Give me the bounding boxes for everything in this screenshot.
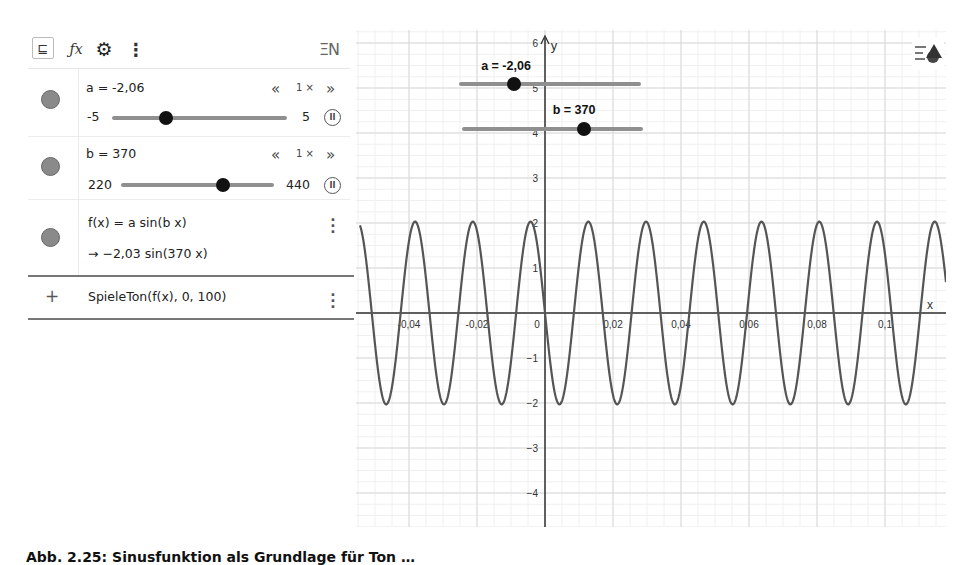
- svg-text:x: x: [927, 298, 933, 312]
- svg-text:1: 1: [532, 263, 538, 274]
- svg-text:−3: −3: [527, 443, 539, 454]
- color-cell: [28, 69, 79, 136]
- pause-icon-b[interactable]: II: [324, 177, 341, 194]
- visibility-toggle-a[interactable]: [41, 90, 60, 109]
- command-input[interactable]: SpieleTon(f(x), 0, 100): [88, 289, 226, 304]
- speed-up-button-b[interactable]: »: [326, 146, 335, 164]
- svg-text:0,06: 0,06: [739, 319, 759, 330]
- svg-text:y: y: [551, 38, 558, 53]
- visibility-toggle-b[interactable]: [41, 157, 60, 176]
- more-icon[interactable]: ⋮: [124, 37, 148, 61]
- slider-a-min: -5: [87, 109, 99, 124]
- slider-b-min: 220: [88, 177, 112, 192]
- slider-a-handle[interactable]: [159, 111, 173, 125]
- speed-down-button-a[interactable]: «: [271, 80, 280, 98]
- speed-down-button-b[interactable]: «: [271, 146, 280, 164]
- pause-icon-a[interactable]: II: [324, 109, 341, 126]
- function-row-f: f(x) = a sin(b x) → −2,03 sin(370 x) ···: [28, 200, 350, 275]
- svg-text:b = 370: b = 370: [553, 103, 596, 117]
- function-value: → −2,03 sin(370 x): [88, 246, 208, 261]
- svg-text:0: 0: [534, 319, 540, 330]
- svg-text:−4: −4: [527, 488, 539, 499]
- slider-b-track[interactable]: [121, 183, 274, 187]
- graphics-style-icon[interactable]: [912, 38, 944, 70]
- divider: [28, 318, 354, 320]
- svg-text:−1: −1: [527, 353, 539, 364]
- visibility-toggle-f[interactable]: [41, 228, 60, 247]
- gear-icon[interactable]: ⚙: [92, 37, 116, 61]
- figure-caption: Abb. 2.25: Sinusfunktion als Grundlage f…: [26, 549, 415, 565]
- canvas-slider-handle: [507, 77, 521, 91]
- fx-icon[interactable]: ƒx: [64, 37, 88, 61]
- plot-canvas[interactable]: -0,04-0,0200,020,040,060,080,1654321−1−2…: [356, 30, 946, 527]
- slider-a-max: 5: [302, 109, 310, 124]
- svg-text:0,1: 0,1: [878, 319, 892, 330]
- input-row[interactable]: + SpieleTon(f(x), 0, 100) ···: [28, 277, 350, 317]
- svg-text:-0,02: -0,02: [466, 319, 489, 330]
- color-cell: [28, 200, 79, 275]
- slider-b-max: 440: [286, 177, 310, 192]
- slider-a-label[interactable]: a = -2,06: [86, 80, 144, 95]
- slider-row-b: b = 370 « 1 × » 220 440 II: [28, 137, 350, 199]
- more-icon[interactable]: ···: [328, 292, 338, 310]
- speed-label-a[interactable]: 1 ×: [296, 82, 314, 93]
- keyboard-input-icon[interactable]: ΞN: [314, 37, 344, 61]
- slider-a-track[interactable]: [112, 116, 287, 120]
- svg-text:6: 6: [532, 38, 538, 49]
- svg-text:−2: −2: [527, 398, 539, 409]
- algebra-toolbar: ⊑ ƒx ⚙ ⋮ ΞN: [28, 35, 350, 65]
- color-cell: [28, 137, 79, 199]
- function-definition[interactable]: f(x) = a sin(b x): [88, 215, 187, 230]
- svg-text:0,08: 0,08: [807, 319, 827, 330]
- graphics-view[interactable]: -0,04-0,0200,020,040,060,080,1654321−1−2…: [356, 30, 946, 527]
- speed-up-button-a[interactable]: »: [326, 80, 335, 98]
- more-icon[interactable]: ···: [328, 217, 338, 235]
- algebra-view: ⊑ ƒx ⚙ ⋮ ΞN a = -2,06 « 1 × » -5 5 II b …: [0, 0, 356, 530]
- svg-text:-0,04: -0,04: [398, 319, 421, 330]
- slider-b-label[interactable]: b = 370: [86, 146, 136, 161]
- slider-row-a: a = -2,06 « 1 × » -5 5 II: [28, 69, 350, 136]
- svg-text:a = -2,06: a = -2,06: [481, 59, 531, 73]
- speed-label-b[interactable]: 1 ×: [296, 148, 314, 159]
- svg-text:0,02: 0,02: [603, 319, 623, 330]
- slider-b-handle[interactable]: [216, 178, 230, 192]
- canvas-slider-handle: [577, 122, 591, 136]
- plus-icon[interactable]: +: [45, 286, 59, 306]
- tree-view-icon[interactable]: ⊑: [32, 37, 54, 59]
- svg-text:3: 3: [532, 173, 538, 184]
